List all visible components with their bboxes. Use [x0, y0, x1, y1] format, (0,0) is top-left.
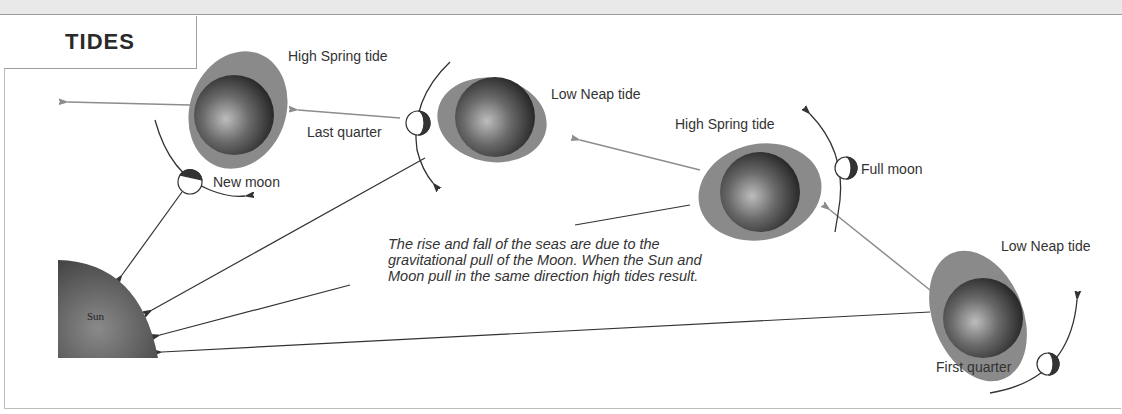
- earth-high-spring-1: [172, 37, 303, 183]
- label-sun: Sun: [87, 310, 104, 322]
- moon-first-quarter: [1037, 353, 1059, 375]
- earth-high-spring-2: [689, 132, 830, 252]
- label-full-moon: Full moon: [861, 161, 922, 177]
- label-high-spring-tide-2: High Spring tide: [675, 116, 775, 132]
- caption-text: The rise and fall of the seas are due to…: [388, 236, 718, 284]
- moon-new: [178, 169, 202, 194]
- label-low-neap-tide-2: Low Neap tide: [1001, 238, 1091, 254]
- moon-orbit-arcs: [155, 62, 1077, 393]
- moon-full: [835, 157, 857, 179]
- label-last-quarter: Last quarter: [307, 124, 382, 140]
- tides-diagram: [0, 0, 1122, 414]
- earth-low-neap-1: [431, 69, 554, 171]
- moon-last-quarter: [406, 111, 430, 135]
- label-low-neap-tide-1: Low Neap tide: [551, 86, 641, 102]
- label-first-quarter: First quarter: [936, 359, 1011, 375]
- label-new-moon: New moon: [213, 174, 280, 190]
- sun-shape: [58, 260, 158, 358]
- label-high-spring-tide-1: High Spring tide: [288, 48, 388, 64]
